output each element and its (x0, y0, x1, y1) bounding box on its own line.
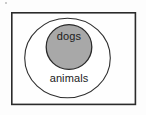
set-label-dogs: dogs (57, 30, 82, 42)
venn-diagram-canvas: dogs animals (0, 0, 146, 115)
set-label-animals: animals (50, 72, 89, 84)
venn-diagram: dogs animals (0, 0, 146, 115)
